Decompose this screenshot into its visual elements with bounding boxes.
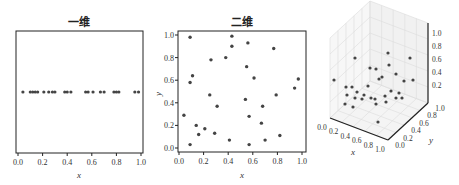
data-point	[400, 96, 403, 99]
data-point	[53, 90, 56, 93]
data-point	[247, 143, 250, 146]
x-axis-1d: 0.00.20.40.60.81.0	[13, 153, 146, 167]
x-tick-label: 0.8	[111, 158, 121, 167]
data-point	[374, 67, 377, 70]
x-tick-label: 0.2	[38, 158, 48, 167]
data-point	[47, 90, 50, 93]
y-axis-label-2d: y	[155, 92, 163, 97]
y-axis-2d: 0.00.20.40.60.81.0	[164, 31, 178, 153]
data-point	[263, 138, 266, 141]
data-point	[397, 91, 400, 94]
data-point	[411, 78, 414, 81]
data-point	[373, 97, 376, 100]
data-point	[69, 90, 72, 93]
data-point	[188, 143, 191, 146]
z-tick-label: 0.8	[432, 42, 442, 51]
y-axis-label-3d: y	[428, 135, 433, 145]
data-point	[353, 56, 356, 59]
data-point	[368, 66, 371, 69]
data-point	[383, 94, 386, 97]
x-tick-label: 0.8	[364, 141, 374, 150]
data-point	[345, 93, 348, 96]
data-point	[246, 41, 249, 44]
data-point	[230, 45, 233, 48]
data-point	[203, 127, 206, 130]
data-point	[66, 90, 69, 93]
x-tick-label: 0.8	[272, 157, 282, 166]
y-tick-label: 0.0	[164, 144, 174, 153]
data-point	[215, 104, 218, 107]
data-point	[244, 98, 247, 101]
data-point	[182, 114, 185, 117]
data-point	[353, 96, 356, 99]
data-point	[224, 56, 227, 59]
data-point	[87, 90, 90, 93]
data-point	[247, 115, 250, 118]
y-tick-label: 0.4	[164, 99, 174, 108]
data-point	[260, 121, 263, 124]
x-tick-label: 0.0	[13, 158, 23, 167]
data-point	[245, 65, 248, 68]
data-point	[332, 78, 335, 81]
y-tick-label: 1.0	[435, 104, 445, 113]
data-point	[188, 36, 191, 39]
chart-title-2d: 二维	[231, 15, 253, 28]
x-tick-label: 0.4	[223, 157, 233, 166]
data-point	[362, 93, 365, 96]
x-tick-label: 0.6	[352, 136, 362, 145]
data-point	[387, 63, 390, 66]
data-point	[213, 132, 216, 135]
y-tick-label: 0.2	[164, 121, 174, 130]
x-tick-label: 0.2	[199, 157, 209, 166]
x-tick-label: 0.2	[329, 127, 339, 136]
x-tick-label: 0.0	[317, 123, 327, 132]
data-point	[91, 90, 94, 93]
data-point	[386, 51, 389, 54]
data-point	[252, 76, 255, 79]
data-point	[343, 102, 346, 105]
data-point	[278, 134, 281, 137]
chart-title-1d: 一维	[68, 15, 90, 28]
x-tick-label: 1.0	[136, 158, 146, 167]
data-point	[350, 85, 353, 88]
panel-1d: 一维 0.00.20.40.60.81.0 x	[0, 0, 155, 185]
x-axis-label-1d: x	[76, 170, 81, 180]
data-point	[376, 120, 379, 123]
data-point	[380, 75, 383, 78]
data-point	[261, 104, 264, 107]
data-point	[408, 56, 411, 59]
panel-3d: 三维 0.00.20.40.60.81.00.00.20.40.60.81.00…	[305, 0, 459, 185]
x-axis-2d: 0.00.20.40.60.81.0	[174, 152, 307, 166]
data-point	[272, 47, 275, 50]
data-point	[137, 90, 140, 93]
x-tick-label: 0.4	[62, 158, 72, 167]
data-point	[99, 90, 102, 93]
data-point	[208, 93, 211, 96]
x-tick-label: 0.4	[341, 132, 351, 141]
data-point	[394, 96, 397, 99]
data-point	[389, 89, 392, 92]
chart-1d: 一维 0.00.20.40.60.81.0 x	[0, 0, 155, 185]
z-tick-label: 0.2	[432, 81, 442, 90]
data-point	[230, 34, 233, 37]
chart-2d: 二维 0.00.20.40.60.81.0 0.00.20.40.60.81.0…	[155, 0, 310, 185]
data-point	[360, 97, 363, 100]
y-tick-label: 0.8	[164, 54, 174, 63]
data-point	[402, 79, 405, 82]
data-point	[188, 81, 191, 84]
data-point	[374, 102, 377, 105]
z-tick-label: 0.4	[432, 68, 442, 77]
x-axis-label-2d: x	[239, 170, 244, 180]
x-tick-label: 0.0	[174, 157, 184, 166]
x-axis-label-3d: x	[350, 147, 355, 157]
x-tick-label: 0.6	[87, 158, 97, 167]
data-point	[228, 138, 231, 141]
y-tick-label: 0.6	[164, 76, 174, 85]
data-point	[355, 90, 358, 93]
data-point	[197, 133, 200, 136]
data-point	[274, 93, 277, 96]
x-tick-label: 0.6	[248, 157, 258, 166]
y-tick-label: 1.0	[164, 31, 174, 40]
panel-2d: 二维 0.00.20.40.60.81.0 0.00.20.40.60.81.0…	[155, 0, 310, 185]
data-point	[36, 90, 39, 93]
